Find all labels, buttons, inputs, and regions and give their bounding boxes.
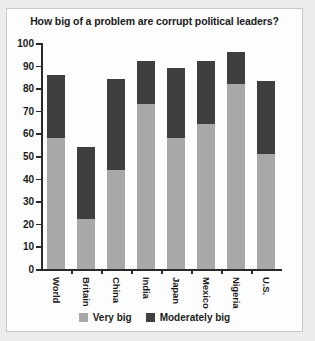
y-axis-tick-label: 60 xyxy=(23,128,34,139)
y-axis-tick-mark xyxy=(36,179,41,181)
bar-segment-very-big[interactable] xyxy=(47,138,65,269)
bar-segment-moderately-big[interactable] xyxy=(197,61,215,124)
chart-legend: Very bigModerately big xyxy=(7,312,302,323)
y-axis-tick-mark xyxy=(36,224,41,226)
x-axis-category-label: Nigeria xyxy=(231,277,242,309)
bar-group[interactable] xyxy=(47,75,65,269)
x-axis-category-label: China xyxy=(111,277,122,303)
bar-segment-very-big[interactable] xyxy=(197,124,215,269)
bar-segment-moderately-big[interactable] xyxy=(77,147,95,219)
y-axis-tick-mark xyxy=(36,201,41,203)
y-axis-tick-label: 10 xyxy=(23,241,34,252)
bar-segment-very-big[interactable] xyxy=(77,219,95,269)
bar-group[interactable] xyxy=(257,81,275,269)
bar-group[interactable] xyxy=(227,52,245,269)
legend-swatch-icon xyxy=(146,313,155,322)
bar-segment-moderately-big[interactable] xyxy=(167,68,185,138)
x-axis-category-label: Mexico xyxy=(201,277,212,309)
x-axis-tick-mark xyxy=(221,269,223,274)
y-axis-tick-label: 100 xyxy=(17,38,34,49)
bar-segment-moderately-big[interactable] xyxy=(137,61,155,104)
legend-label: Moderately big xyxy=(160,312,231,323)
x-axis-tick-mark xyxy=(131,269,133,274)
bar-segment-moderately-big[interactable] xyxy=(257,81,275,153)
y-axis-tick-mark xyxy=(36,269,41,271)
bar-segment-very-big[interactable] xyxy=(227,84,245,269)
x-axis-category-label: Japan xyxy=(171,277,182,304)
bar-segment-very-big[interactable] xyxy=(257,154,275,269)
bar-group[interactable] xyxy=(107,79,125,269)
x-axis-tick-mark xyxy=(101,269,103,274)
y-axis-tick-mark xyxy=(36,111,41,113)
y-axis-tick-mark xyxy=(36,88,41,90)
bar-group[interactable] xyxy=(137,61,155,269)
x-axis-category-label: Britain xyxy=(81,277,92,306)
bar-segment-moderately-big[interactable] xyxy=(107,79,125,169)
legend-item[interactable]: Moderately big xyxy=(146,312,231,323)
bar-segment-very-big[interactable] xyxy=(137,104,155,269)
y-axis-tick-label: 0 xyxy=(28,264,34,275)
y-axis-tick-label: 50 xyxy=(23,151,34,162)
bar-segment-very-big[interactable] xyxy=(167,138,185,269)
x-axis-category-label: U.S. xyxy=(261,277,272,295)
y-axis-tick-mark xyxy=(36,133,41,135)
bar-group[interactable] xyxy=(77,147,95,269)
y-axis-tick-mark xyxy=(36,156,41,158)
x-axis-tick-mark xyxy=(191,269,193,274)
chart-title: How big of a problem are corrupt politic… xyxy=(7,15,302,27)
x-axis-tick-mark xyxy=(71,269,73,274)
bar-group[interactable] xyxy=(197,61,215,269)
bar-group[interactable] xyxy=(167,68,185,269)
x-axis-tick-mark xyxy=(251,269,253,274)
legend-swatch-icon xyxy=(79,313,88,322)
chart-panel: How big of a problem are corrupt politic… xyxy=(6,8,303,332)
bar-segment-very-big[interactable] xyxy=(107,170,125,269)
y-axis-tick-label: 70 xyxy=(23,105,34,116)
plot-area: 0102030405060708090100 xyxy=(41,43,281,269)
y-axis-tick-label: 90 xyxy=(23,60,34,71)
legend-item[interactable]: Very big xyxy=(79,312,132,323)
y-axis-tick-mark xyxy=(36,43,41,45)
legend-label: Very big xyxy=(93,312,132,323)
y-axis-tick-label: 30 xyxy=(23,196,34,207)
y-axis-tick-mark xyxy=(36,66,41,68)
x-axis-tick-mark xyxy=(161,269,163,274)
y-axis-tick-label: 20 xyxy=(23,218,34,229)
bar-segment-moderately-big[interactable] xyxy=(227,52,245,84)
y-axis-tick-label: 40 xyxy=(23,173,34,184)
x-axis-category-label: World xyxy=(51,277,62,303)
y-axis-tick-label: 80 xyxy=(23,83,34,94)
x-axis-category-label: India xyxy=(141,277,152,299)
bar-segment-moderately-big[interactable] xyxy=(47,75,65,138)
y-axis-tick-mark xyxy=(36,246,41,248)
